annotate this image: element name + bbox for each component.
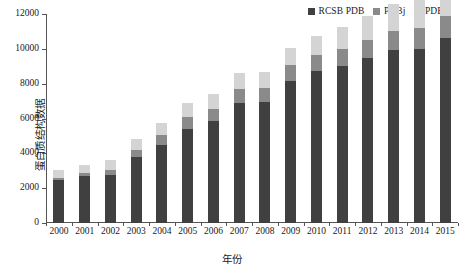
bar-segment-rcsb-pdb[interactable]: [414, 49, 425, 223]
bar-group[interactable]: [105, 160, 116, 223]
bar-group[interactable]: [131, 139, 142, 223]
x-axis-tick-label: 2002: [101, 226, 120, 236]
bar-segment-rcsb-pdb[interactable]: [131, 157, 142, 223]
bar-segment-pdbe[interactable]: [53, 170, 64, 178]
y-axis-tick-label: 6000: [20, 113, 39, 123]
bar-segment-pdbj[interactable]: [388, 31, 399, 50]
bar-segment-rcsb-pdb[interactable]: [105, 175, 116, 223]
bar-segment-rcsb-pdb[interactable]: [285, 81, 296, 223]
bar-segment-pdbj[interactable]: [414, 28, 425, 49]
x-axis-tick-label: 2005: [178, 226, 197, 236]
bar-segment-rcsb-pdb[interactable]: [208, 121, 219, 223]
x-axis-tick-label: 2015: [436, 226, 455, 236]
bar-segment-pdbe[interactable]: [440, 0, 451, 16]
bar-segment-pdbj[interactable]: [131, 150, 142, 157]
bar-segment-pdbe[interactable]: [234, 73, 245, 89]
bar-group[interactable]: [285, 48, 296, 223]
bar-segment-pdbe[interactable]: [156, 123, 167, 135]
y-axis-tick-label: 10000: [15, 43, 39, 53]
bar-segment-rcsb-pdb[interactable]: [259, 102, 270, 223]
x-axis-tick-label: 2009: [281, 226, 300, 236]
x-axis-tick-label: 2007: [230, 226, 249, 236]
x-axis-tick-label: 2014: [410, 226, 429, 236]
bar-segment-rcsb-pdb[interactable]: [79, 176, 90, 223]
x-axis-tick-label: 2008: [255, 226, 274, 236]
bar-segment-pdbe[interactable]: [79, 165, 90, 174]
bar-segment-pdbe[interactable]: [337, 27, 348, 49]
bar-group[interactable]: [182, 103, 193, 223]
y-axis-tick-label: 4000: [20, 147, 39, 157]
bar-group[interactable]: [388, 4, 399, 223]
stacked-bar-chart: RCSB PDBPDBjPDBe 蛋白质结构数据 020004000600080…: [0, 0, 465, 270]
bar-segment-pdbj[interactable]: [362, 40, 373, 58]
bar-segment-pdbe[interactable]: [285, 48, 296, 65]
bar-group[interactable]: [440, 0, 451, 223]
y-axis-title: 蛋白质结构数据: [32, 99, 47, 172]
bar-segment-pdbe[interactable]: [208, 94, 219, 109]
bar-group[interactable]: [156, 123, 167, 223]
bar-segment-pdbj[interactable]: [156, 135, 167, 145]
plot-area: 020004000600080001000012000: [46, 14, 458, 223]
bar-segment-rcsb-pdb[interactable]: [53, 180, 64, 223]
bar-segment-pdbj[interactable]: [285, 65, 296, 81]
x-axis-tick: [458, 223, 459, 226]
bar-segment-pdbe[interactable]: [388, 4, 399, 30]
x-axis-tick-label: 2004: [152, 226, 171, 236]
bar-segment-pdbj[interactable]: [234, 89, 245, 103]
bar-segment-rcsb-pdb[interactable]: [362, 58, 373, 223]
x-axis-title: 年份: [0, 251, 465, 266]
bar-segment-pdbj[interactable]: [440, 16, 451, 38]
bar-segment-pdbe[interactable]: [105, 160, 116, 170]
bar-group[interactable]: [362, 16, 373, 223]
bar-series-container: [46, 14, 458, 223]
bar-segment-pdbe[interactable]: [131, 139, 142, 149]
bar-segment-rcsb-pdb[interactable]: [440, 38, 451, 223]
bar-group[interactable]: [234, 73, 245, 223]
y-axis-tick-label: 2000: [20, 182, 39, 192]
x-axis-tick-label: 2006: [204, 226, 223, 236]
x-axis-tick-label: 2012: [358, 226, 377, 236]
y-axis-tick-label: 8000: [20, 78, 39, 88]
bar-segment-rcsb-pdb[interactable]: [337, 66, 348, 223]
y-axis-tick-label: 12000: [15, 8, 39, 18]
bar-segment-rcsb-pdb[interactable]: [311, 71, 322, 223]
bar-segment-pdbj[interactable]: [259, 88, 270, 102]
x-axis-tick-label: 2001: [75, 226, 94, 236]
bar-segment-pdbj[interactable]: [182, 117, 193, 129]
bar-segment-pdbe[interactable]: [362, 16, 373, 40]
bar-segment-rcsb-pdb[interactable]: [234, 103, 245, 223]
x-axis-tick-label: 2013: [384, 226, 403, 236]
bar-segment-pdbe[interactable]: [311, 36, 322, 55]
bar-group[interactable]: [311, 36, 322, 223]
x-axis-labels: 2000200120022003200420052006200720082009…: [46, 226, 458, 240]
bar-segment-pdbe[interactable]: [414, 0, 425, 28]
bar-segment-rcsb-pdb[interactable]: [182, 129, 193, 223]
bar-segment-pdbj[interactable]: [311, 55, 322, 72]
bar-group[interactable]: [259, 72, 270, 223]
x-axis-tick-label: 2011: [333, 226, 352, 236]
x-axis-tick-label: 2000: [49, 226, 68, 236]
bar-segment-rcsb-pdb[interactable]: [388, 50, 399, 223]
bar-segment-rcsb-pdb[interactable]: [156, 145, 167, 223]
bar-group[interactable]: [414, 0, 425, 223]
bar-segment-pdbe[interactable]: [259, 72, 270, 88]
x-axis-tick-label: 2003: [127, 226, 146, 236]
bar-segment-pdbj[interactable]: [337, 49, 348, 66]
bar-group[interactable]: [79, 164, 90, 223]
bar-segment-pdbe[interactable]: [182, 103, 193, 117]
bar-group[interactable]: [208, 94, 219, 223]
y-axis-tick-label: 0: [34, 217, 39, 227]
bar-group[interactable]: [337, 27, 348, 223]
bar-segment-pdbj[interactable]: [208, 109, 219, 121]
bar-group[interactable]: [53, 170, 64, 223]
x-axis-tick-label: 2010: [307, 226, 326, 236]
